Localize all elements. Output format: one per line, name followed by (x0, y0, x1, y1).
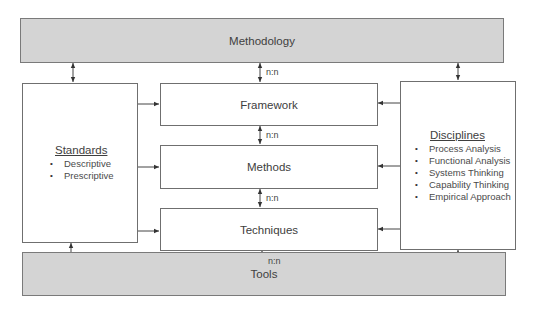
tools-label: Tools (251, 268, 278, 280)
relation-label-methods-techniques: n:n (266, 193, 279, 203)
disciplines-item: Process Analysis (415, 143, 515, 155)
relation-label-methodology-framework: n:n (266, 67, 279, 77)
disciplines-item: Empirical Approach (415, 191, 515, 203)
standards-item: Prescriptive (50, 170, 137, 182)
disciplines-item: Functional Analysis (415, 155, 515, 167)
framework-label: Framework (240, 99, 298, 111)
disciplines-title: Disciplines (415, 129, 515, 141)
framework-box: Framework (160, 83, 378, 126)
relation-label-techniques-tools: n:n (268, 256, 281, 266)
standards-title: Standards (50, 144, 137, 156)
methodology-bar: Methodology (20, 18, 504, 63)
relation-label-framework-methods: n:n (266, 130, 279, 140)
disciplines-box: Disciplines Process Analysis Functional … (400, 81, 516, 250)
techniques-label: Techniques (240, 224, 298, 236)
standards-item: Descriptive (50, 158, 137, 170)
methods-label: Methods (247, 161, 291, 173)
standards-list: Descriptive Prescriptive (50, 158, 137, 182)
techniques-box: Techniques (160, 208, 378, 251)
methodology-label: Methodology (229, 35, 295, 47)
disciplines-list: Process Analysis Functional Analysis Sys… (415, 143, 515, 203)
standards-box: Standards Descriptive Prescriptive (22, 83, 138, 243)
tools-bar: Tools (22, 252, 506, 296)
disciplines-item: Systems Thinking (415, 167, 515, 179)
methods-box: Methods (160, 145, 378, 189)
disciplines-item: Capability Thinking (415, 179, 515, 191)
